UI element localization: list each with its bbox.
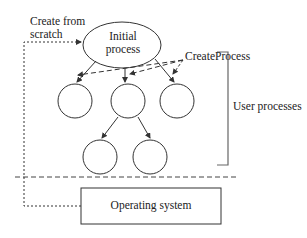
user-processes-label: User processes — [233, 100, 302, 113]
operating-system-label: Operating system — [81, 199, 221, 212]
spawn-arrow — [77, 61, 96, 82]
createprocess-arrow — [130, 60, 183, 74]
create-from-scratch-path — [24, 42, 81, 206]
label-line: Initial — [104, 30, 142, 43]
user-process-node — [133, 140, 167, 174]
spawn-arrow — [138, 117, 150, 138]
createprocess-label: CreateProcess — [185, 50, 250, 63]
spawn-arrow — [102, 117, 118, 138]
label-line: Create from — [30, 15, 85, 28]
label-line: process — [104, 43, 142, 56]
initial-process-label: Initial process — [104, 30, 142, 56]
create-from-scratch-label: Create from scratch — [30, 15, 85, 41]
label-line: scratch — [30, 28, 85, 41]
user-process-node — [111, 84, 145, 118]
user-process-node — [83, 140, 117, 174]
user-process-node — [160, 84, 194, 118]
user-process-node — [58, 84, 92, 118]
user-processes-bracket — [217, 52, 228, 165]
